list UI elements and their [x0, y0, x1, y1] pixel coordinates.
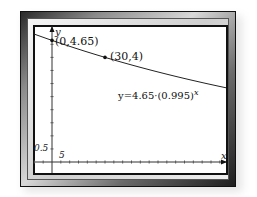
point-label-0: (0,4.65): [55, 36, 99, 47]
x-tick-label: 5: [59, 151, 65, 160]
data-point: [103, 56, 107, 60]
y-tick-label: 0.5: [34, 144, 48, 153]
equation-exponent: x: [194, 88, 199, 97]
y-axis-arrow-icon: [50, 26, 55, 32]
equation-label: y=4.65·(0.995)x: [118, 89, 198, 101]
equation-text: y=4.65·(0.995): [118, 90, 194, 101]
point-label-1: (30,4): [110, 51, 143, 62]
x-axis-label: x: [221, 151, 227, 161]
data-point: [50, 39, 54, 43]
